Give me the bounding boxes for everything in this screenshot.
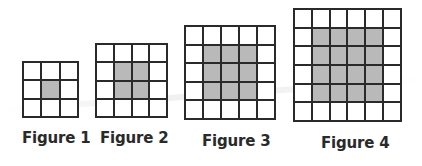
unshaded-square: [97, 63, 113, 79]
unshaded-square: [295, 29, 311, 46]
unshaded-square: [240, 101, 256, 118]
unshaded-square: [133, 100, 149, 116]
shaded-square: [331, 85, 347, 102]
shaded-square: [42, 81, 58, 97]
unshaded-square: [384, 103, 400, 120]
unshaded-square: [295, 103, 311, 120]
unshaded-square: [42, 100, 58, 116]
figure-label: Figure 1: [22, 129, 90, 147]
square-grid: [293, 8, 402, 122]
unshaded-square: [186, 64, 202, 81]
unshaded-square: [258, 101, 274, 118]
shaded-square: [313, 66, 329, 83]
unshaded-square: [115, 100, 131, 116]
unshaded-square: [366, 10, 382, 27]
shaded-square: [204, 83, 220, 100]
unshaded-square: [258, 64, 274, 81]
unshaded-square: [258, 46, 274, 63]
shaded-square: [348, 29, 364, 46]
unshaded-square: [240, 27, 256, 44]
square-grid: [22, 61, 79, 118]
unshaded-square: [61, 100, 77, 116]
unshaded-square: [150, 45, 166, 61]
shaded-square: [313, 29, 329, 46]
shaded-square: [240, 64, 256, 81]
unshaded-square: [133, 45, 149, 61]
shaded-square: [222, 83, 238, 100]
shaded-square: [115, 63, 131, 79]
shaded-square: [133, 63, 149, 79]
shaded-square: [222, 46, 238, 63]
unshaded-square: [204, 27, 220, 44]
unshaded-square: [186, 27, 202, 44]
unshaded-square: [384, 47, 400, 64]
unshaded-square: [348, 10, 364, 27]
unshaded-square: [313, 103, 329, 120]
unshaded-square: [222, 27, 238, 44]
unshaded-square: [186, 46, 202, 63]
unshaded-square: [258, 83, 274, 100]
shaded-square: [331, 66, 347, 83]
unshaded-square: [384, 85, 400, 102]
unshaded-square: [97, 45, 113, 61]
shaded-square: [313, 47, 329, 64]
unshaded-square: [222, 101, 238, 118]
figure-label: Figure 3: [202, 132, 270, 150]
shaded-square: [348, 66, 364, 83]
shaded-square: [331, 29, 347, 46]
shaded-square: [115, 82, 131, 98]
unshaded-square: [97, 100, 113, 116]
unshaded-square: [384, 29, 400, 46]
shaded-square: [204, 46, 220, 63]
unshaded-square: [24, 63, 40, 79]
unshaded-square: [97, 82, 113, 98]
figure-label: Figure 2: [100, 129, 168, 147]
unshaded-square: [366, 103, 382, 120]
unshaded-square: [295, 47, 311, 64]
figure-label: Figure 4: [321, 134, 389, 152]
unshaded-square: [313, 10, 329, 27]
unshaded-square: [61, 81, 77, 97]
shaded-square: [204, 64, 220, 81]
unshaded-square: [331, 10, 347, 27]
unshaded-square: [295, 85, 311, 102]
unshaded-square: [258, 27, 274, 44]
unshaded-square: [150, 63, 166, 79]
unshaded-square: [24, 81, 40, 97]
shaded-square: [366, 29, 382, 46]
shaded-square: [222, 64, 238, 81]
shaded-square: [348, 47, 364, 64]
unshaded-square: [204, 101, 220, 118]
unshaded-square: [150, 82, 166, 98]
unshaded-square: [115, 45, 131, 61]
unshaded-square: [61, 63, 77, 79]
shaded-square: [240, 83, 256, 100]
shaded-square: [366, 47, 382, 64]
unshaded-square: [150, 100, 166, 116]
shaded-square: [331, 47, 347, 64]
unshaded-square: [295, 10, 311, 27]
unshaded-square: [24, 100, 40, 116]
unshaded-square: [42, 63, 58, 79]
shaded-square: [240, 46, 256, 63]
shaded-square: [313, 85, 329, 102]
unshaded-square: [331, 103, 347, 120]
unshaded-square: [186, 101, 202, 118]
unshaded-square: [295, 66, 311, 83]
unshaded-square: [348, 103, 364, 120]
square-grid: [95, 43, 168, 118]
unshaded-square: [384, 10, 400, 27]
unshaded-square: [384, 66, 400, 83]
square-grid: [184, 25, 276, 120]
unshaded-square: [186, 83, 202, 100]
shaded-square: [366, 85, 382, 102]
shaded-square: [348, 85, 364, 102]
shaded-square: [366, 66, 382, 83]
shaded-square: [133, 82, 149, 98]
